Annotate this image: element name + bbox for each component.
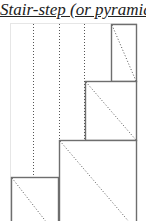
step-1-box <box>112 25 137 82</box>
stair-step-diagram <box>0 0 146 221</box>
step-2-box <box>86 82 137 141</box>
step-boxes <box>12 25 137 222</box>
step-3-box <box>60 141 137 222</box>
step-4-box <box>12 178 59 222</box>
